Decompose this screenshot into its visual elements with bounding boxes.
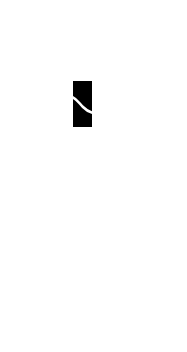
splash-screen [0,0,187,352]
app-logo-icon [73,81,92,127]
